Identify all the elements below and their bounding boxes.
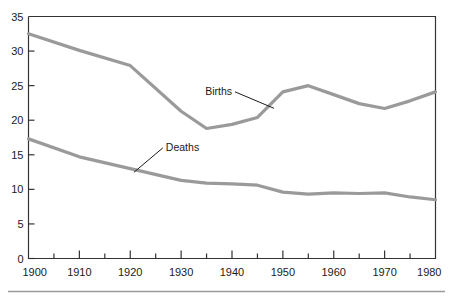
series-line-births (29, 34, 436, 129)
series-annotations: BirthsDeaths (134, 85, 274, 172)
y-tick-label: 35 (11, 11, 23, 23)
x-axis-ticks (54, 251, 410, 259)
x-tick-label: 1950 (271, 266, 295, 278)
x-tick-label: 1980 (417, 266, 441, 278)
y-tick-label: 5 (17, 218, 23, 230)
x-tick-label: 1940 (220, 266, 244, 278)
y-tick-label: 25 (11, 80, 23, 92)
chart-container: 05101520253035 1900191019201930194019501… (0, 0, 453, 298)
x-tick-label: 1970 (372, 266, 396, 278)
y-tick-label: 20 (11, 114, 23, 126)
y-tick-label: 15 (11, 149, 23, 161)
x-tick-label: 1930 (169, 266, 193, 278)
births-leader-line (235, 92, 274, 109)
series-line-deaths (29, 139, 436, 200)
data-series-lines (29, 34, 436, 200)
x-tick-label: 1900 (23, 266, 47, 278)
births-label: Births (205, 85, 232, 97)
x-tick-label: 1920 (118, 266, 142, 278)
x-tick-label: 1960 (322, 266, 346, 278)
line-chart: 05101520253035 1900191019201930194019501… (0, 0, 453, 298)
y-tick-label: 10 (11, 183, 23, 195)
deaths-leader-line (134, 148, 163, 173)
y-tick-label: 0 (17, 253, 23, 265)
x-axis-tick-labels: 190019101920193019401950196019701980 (23, 266, 442, 278)
y-tick-label: 30 (11, 45, 23, 57)
x-tick-label: 1910 (67, 266, 91, 278)
y-axis-tick-labels: 05101520253035 (11, 11, 23, 265)
deaths-label: Deaths (166, 141, 199, 153)
y-axis-ticks (29, 51, 35, 258)
